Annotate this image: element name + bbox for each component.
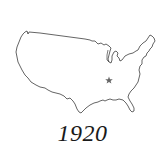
year-label: 1920 <box>0 120 165 146</box>
us-map-figure: 1920 <box>0 0 165 155</box>
star-icon <box>105 77 113 84</box>
us-border-outline <box>16 31 155 113</box>
